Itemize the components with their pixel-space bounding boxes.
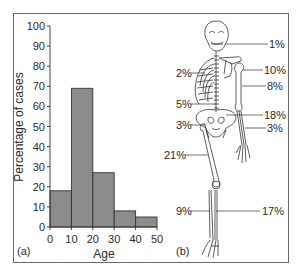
y-tick-20: 20 <box>33 181 45 193</box>
label-forearm: 3% <box>267 122 283 134</box>
bar-20-30 <box>93 173 114 227</box>
fibula <box>209 190 210 238</box>
bar-0-10 <box>50 191 71 227</box>
x-tick-40: 40 <box>129 233 141 245</box>
hand <box>236 145 250 163</box>
label-skull: 1% <box>269 38 285 50</box>
ribcage <box>195 58 214 104</box>
y-tick-60: 60 <box>33 100 45 112</box>
label-fibula: 9% <box>176 205 192 217</box>
femur <box>200 124 220 187</box>
label-hip: 3% <box>176 119 192 131</box>
scapula <box>224 60 232 78</box>
y-tick-10: 10 <box>33 201 45 213</box>
panel-a-label: (a) <box>17 245 30 257</box>
bar-10-20 <box>71 88 92 227</box>
x-tick-20: 20 <box>87 233 99 245</box>
x-tick-labels: 0 10 20 30 40 50 <box>47 233 163 245</box>
label-humerus-shaft: 8% <box>267 80 283 92</box>
foot <box>202 240 219 258</box>
x-tick-30: 30 <box>108 233 120 245</box>
histogram-bars <box>50 88 157 227</box>
x-tick-50: 50 <box>151 233 163 245</box>
y-tick-0: 0 <box>39 221 45 233</box>
spine <box>214 51 219 112</box>
y-tick-70: 70 <box>33 80 45 92</box>
bar-40-50 <box>136 217 157 227</box>
y-tick-30: 30 <box>33 161 45 173</box>
bar-30-40 <box>114 211 135 227</box>
skeleton-drawing <box>195 21 250 258</box>
x-axis-label: Age <box>93 247 115 261</box>
y-axis-label: Percentage of cases <box>12 72 26 181</box>
y-tick-80: 80 <box>33 60 45 72</box>
skeleton-panel: 1% 2% 10% 8% 5% 18% 3% 3% 21% 9% 17% (b) <box>164 21 286 258</box>
y-tick-100: 100 <box>27 20 45 32</box>
figure-svg: 0 10 20 30 40 50 60 70 80 90 100 Percent… <box>0 0 299 273</box>
label-pelvis: 18% <box>264 109 286 121</box>
label-tibia: 17% <box>262 205 284 217</box>
tibia <box>211 190 217 240</box>
histogram-panel: 0 10 20 30 40 50 60 70 80 90 100 Percent… <box>12 20 163 261</box>
y-tick-50: 50 <box>33 121 45 133</box>
label-femur: 21% <box>164 149 186 161</box>
humerus <box>235 63 244 111</box>
pelvis <box>196 109 236 137</box>
y-tick-40: 40 <box>33 141 45 153</box>
x-tick-0: 0 <box>47 233 53 245</box>
skull <box>205 21 228 51</box>
label-humerus-proximal: 10% <box>264 64 286 76</box>
panel-b-label: (b) <box>176 245 189 257</box>
y-tick-90: 90 <box>33 40 45 52</box>
x-tick-10: 10 <box>65 233 77 245</box>
forearm <box>237 111 246 145</box>
label-spine: 5% <box>176 98 192 110</box>
label-ribs: 2% <box>176 67 192 79</box>
y-tick-labels: 0 10 20 30 40 50 60 70 80 90 100 <box>27 20 45 233</box>
